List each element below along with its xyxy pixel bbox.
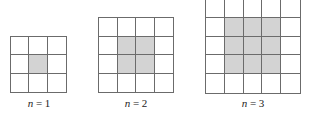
shaded-cell — [244, 37, 263, 56]
shaded-cell — [244, 55, 263, 74]
shaded-cell — [118, 55, 137, 74]
empty-cell — [11, 37, 29, 55]
empty-cell — [155, 55, 174, 74]
empty-cell — [99, 18, 118, 37]
grid-n2 — [98, 17, 174, 93]
shaded-cell — [225, 55, 244, 74]
label-value: 2 — [142, 97, 148, 109]
empty-cell — [206, 0, 225, 18]
empty-cell — [118, 74, 137, 93]
empty-cell — [136, 18, 155, 37]
empty-cell — [155, 37, 174, 56]
label-value: 3 — [259, 97, 265, 109]
shaded-cell — [262, 55, 281, 74]
label-n2: n = 2 — [106, 97, 166, 109]
empty-cell — [48, 74, 66, 92]
empty-cell — [118, 18, 137, 37]
label-n1: n = 1 — [9, 97, 69, 109]
shaded-cell — [29, 55, 47, 73]
shaded-cell — [244, 18, 263, 37]
empty-cell — [99, 37, 118, 56]
empty-cell — [206, 18, 225, 37]
empty-cell — [225, 0, 244, 18]
empty-cell — [155, 74, 174, 93]
empty-cell — [281, 37, 300, 56]
empty-cell — [206, 37, 225, 56]
empty-cell — [281, 55, 300, 74]
grid-n1 — [10, 36, 67, 93]
shaded-cell — [118, 37, 137, 56]
empty-cell — [99, 55, 118, 74]
empty-cell — [48, 55, 66, 73]
empty-cell — [99, 74, 118, 93]
shaded-cell — [136, 55, 155, 74]
shaded-cell — [225, 18, 244, 37]
shaded-cell — [262, 18, 281, 37]
empty-cell — [281, 18, 300, 37]
empty-cell — [29, 37, 47, 55]
empty-cell — [281, 74, 300, 93]
label-equals: = — [130, 97, 142, 109]
empty-cell — [155, 18, 174, 37]
label-equals: = — [33, 97, 45, 109]
empty-cell — [11, 55, 29, 73]
empty-cell — [206, 55, 225, 74]
label-equals: = — [247, 97, 259, 109]
empty-cell — [136, 74, 155, 93]
empty-cell — [11, 74, 29, 92]
shaded-cell — [136, 37, 155, 56]
shaded-cell — [262, 37, 281, 56]
shaded-cell — [225, 37, 244, 56]
grid-n3 — [205, 0, 301, 94]
empty-cell — [244, 0, 263, 18]
empty-cell — [225, 74, 244, 93]
empty-cell — [262, 74, 281, 93]
empty-cell — [206, 74, 225, 93]
empty-cell — [29, 74, 47, 92]
label-value: 1 — [45, 97, 51, 109]
empty-cell — [281, 0, 300, 18]
empty-cell — [262, 0, 281, 18]
empty-cell — [244, 74, 263, 93]
label-n3: n = 3 — [223, 97, 283, 109]
empty-cell — [48, 37, 66, 55]
